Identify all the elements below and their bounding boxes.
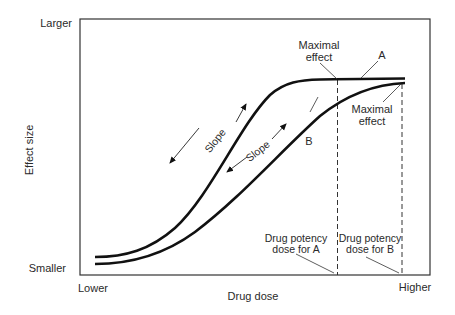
potency-b-line2: dose for B bbox=[346, 243, 394, 255]
potency-a-line2: dose for A bbox=[272, 243, 319, 255]
curve-b-leader bbox=[310, 97, 318, 112]
y-axis-title: Effect size bbox=[23, 125, 35, 176]
maximal-effect-b-line1: Maximal bbox=[352, 103, 393, 115]
slope-b-arrow-up bbox=[272, 124, 286, 139]
potency-a-leader bbox=[296, 254, 334, 273]
maximal-effect-a-line1: Maximal bbox=[299, 39, 340, 51]
dose-response-diagram: Slope Slope Maximal effect A Maximal eff… bbox=[0, 0, 455, 315]
slope-b-label: Slope bbox=[243, 138, 272, 164]
x-axis-right-label: Higher bbox=[399, 281, 432, 293]
slope-a-arrow-down bbox=[170, 128, 199, 163]
maximal-effect-b-leader bbox=[383, 84, 401, 102]
y-axis-bottom-label: Smaller bbox=[29, 262, 67, 274]
potency-b-leader bbox=[366, 257, 399, 273]
y-axis-top-label: Larger bbox=[40, 17, 72, 29]
maximal-effect-a-line2: effect bbox=[306, 51, 333, 63]
x-axis-left-label: Lower bbox=[78, 282, 108, 294]
curve-b-label: B bbox=[305, 135, 312, 147]
slope-a-label: Slope bbox=[202, 126, 228, 155]
curve-a-leader bbox=[361, 61, 378, 78]
maximal-effect-b-line2: effect bbox=[359, 115, 386, 127]
curve-a-label: A bbox=[378, 49, 386, 61]
maximal-effect-a-leader bbox=[320, 63, 337, 79]
x-axis-title: Drug dose bbox=[228, 290, 279, 302]
slope-a-arrow-up bbox=[236, 104, 246, 122]
slope-b-arrow-down bbox=[227, 157, 247, 172]
